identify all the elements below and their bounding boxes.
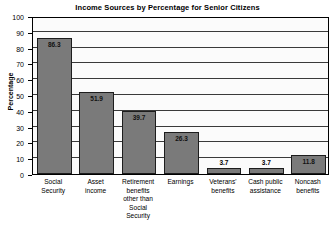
- y-axis-tick: [28, 33, 32, 34]
- x-axis-label-line: Cash public: [244, 178, 286, 187]
- y-axis-tick-label: 20: [0, 140, 24, 147]
- x-axis-label-line: benefits: [287, 187, 329, 196]
- y-axis-tick: [28, 80, 32, 81]
- bar-value-label: 39.7: [123, 114, 156, 121]
- bar[interactable]: 39.7: [122, 111, 157, 174]
- bar-value-label: 51.9: [80, 95, 113, 102]
- bar-value-label: 3.7: [250, 159, 283, 166]
- bar[interactable]: 86.3: [37, 38, 72, 174]
- y-axis-tick: [28, 128, 32, 129]
- x-axis-label-line: other than: [117, 195, 159, 204]
- y-axis-tick: [28, 17, 32, 18]
- bar-slot: 3.7: [245, 18, 287, 174]
- y-axis-tick-label: 70: [0, 61, 24, 68]
- x-axis-label: Veterans'benefits: [202, 178, 244, 195]
- bar[interactable]: 26.3: [164, 132, 199, 174]
- x-axis-label-line: Noncash: [287, 178, 329, 187]
- x-axis-label: Cash publicassistance: [244, 178, 286, 195]
- y-axis-tick: [28, 49, 32, 50]
- x-axis-label-line: Veterans': [202, 178, 244, 187]
- x-axis-label-line: Social: [32, 178, 74, 187]
- bar-slot: 86.3: [33, 18, 75, 174]
- bar[interactable]: 3.7: [249, 168, 284, 174]
- x-axis-label-line: Earnings: [159, 178, 201, 187]
- bar-value-label: 3.7: [208, 159, 241, 166]
- bar-slot: 11.8: [288, 18, 330, 174]
- y-axis-tick-label: 50: [0, 93, 24, 100]
- bar-slot: 51.9: [75, 18, 117, 174]
- y-axis-tick-label: 40: [0, 108, 24, 115]
- x-axis-label-line: Security: [32, 187, 74, 196]
- x-axis-label: Noncashbenefits: [287, 178, 329, 195]
- bar[interactable]: 11.8: [291, 155, 326, 174]
- bar-slot: 3.7: [203, 18, 245, 174]
- x-axis-label-line: Retirement: [117, 178, 159, 187]
- y-axis-tick-label: 0: [0, 172, 24, 179]
- y-axis-tick: [28, 64, 32, 65]
- y-axis-tick-label: 100: [0, 14, 24, 21]
- x-axis-label-line: income: [74, 187, 116, 196]
- y-axis-tick: [28, 175, 32, 176]
- bar-chart: Income Sources by Percentage for Senior …: [0, 0, 335, 230]
- bar-value-label: 11.8: [292, 158, 325, 165]
- y-axis-tick: [28, 112, 32, 113]
- x-axis-labels: SocialSecurityAssetincomeRetirementbenef…: [32, 178, 329, 228]
- bar-slot: 39.7: [118, 18, 160, 174]
- x-axis-label-line: benefits: [202, 187, 244, 196]
- bar[interactable]: 3.7: [207, 168, 242, 174]
- bar-value-label: 26.3: [165, 135, 198, 142]
- x-axis-label: Assetincome: [74, 178, 116, 195]
- bar-value-label: 86.3: [38, 41, 71, 48]
- x-axis-label: Earnings: [159, 178, 201, 187]
- x-axis-label-line: benefits: [117, 187, 159, 196]
- plot-area: 86.351.939.726.33.73.711.8: [32, 17, 329, 175]
- y-axis-tick: [28, 143, 32, 144]
- y-axis-tick: [28, 159, 32, 160]
- x-axis-label: Retirementbenefitsother thanSocial Secur…: [117, 178, 159, 221]
- bar[interactable]: 51.9: [79, 92, 114, 174]
- x-axis-label-line: Asset: [74, 178, 116, 187]
- y-axis-tick-label: 90: [0, 29, 24, 36]
- bars-layer: 86.351.939.726.33.73.711.8: [33, 18, 328, 174]
- y-axis-tick-label: 60: [0, 77, 24, 84]
- y-axis-tick-label: 80: [0, 45, 24, 52]
- bar-slot: 26.3: [160, 18, 202, 174]
- y-axis-tick: [28, 96, 32, 97]
- chart-title: Income Sources by Percentage for Senior …: [0, 3, 335, 12]
- x-axis-label-line: Social Security: [117, 204, 159, 221]
- x-axis-label-line: assistance: [244, 187, 286, 196]
- y-axis-tick-label: 10: [0, 156, 24, 163]
- x-axis-label: SocialSecurity: [32, 178, 74, 195]
- y-axis-tick-label: 30: [0, 124, 24, 131]
